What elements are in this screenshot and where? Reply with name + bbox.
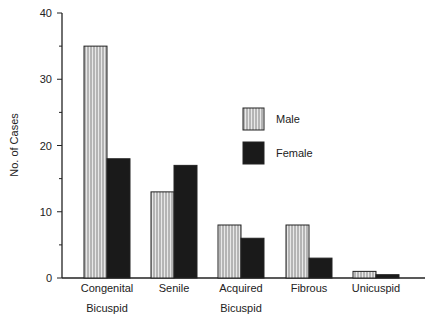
chart-axes: 010203040No. of Cases — [8, 7, 425, 284]
category-label: Senile — [159, 282, 190, 294]
y-axis-label: No. of Cases — [8, 113, 20, 177]
legend-swatch-female — [243, 142, 264, 164]
y-tick-label: 10 — [40, 206, 52, 218]
legend-label-female: Female — [276, 147, 313, 159]
y-tick-label: 30 — [40, 73, 52, 85]
y-tick-label: 40 — [40, 7, 52, 19]
bar-male — [353, 271, 376, 278]
bar-male — [286, 225, 309, 278]
bar-chart: 010203040No. of Cases CongenitalBicuspid… — [0, 0, 434, 325]
y-tick-label: 20 — [40, 140, 52, 152]
category-label-line2: Bicuspid — [220, 302, 262, 314]
y-tick-label: 0 — [46, 272, 52, 284]
legend-swatch-male — [243, 108, 264, 130]
legend-label-male: Male — [276, 113, 300, 125]
category-label: Unicuspid — [352, 282, 400, 294]
category-label-line2: Bicuspid — [86, 302, 128, 314]
bar-male — [218, 225, 241, 278]
bar-female — [376, 275, 399, 278]
chart-legend: MaleFemale — [243, 108, 313, 164]
category-label: Fibrous — [291, 282, 328, 294]
bar-female — [174, 165, 197, 278]
category-label: Acquired — [219, 282, 262, 294]
chart-bars: CongenitalBicuspidSenileAcquiredBicuspid… — [81, 46, 400, 314]
category-label: Congenital — [81, 282, 134, 294]
bar-female — [241, 238, 264, 278]
bar-female — [107, 159, 130, 278]
bar-male — [151, 192, 174, 278]
bar-female — [309, 258, 332, 278]
bar-male — [84, 46, 107, 278]
